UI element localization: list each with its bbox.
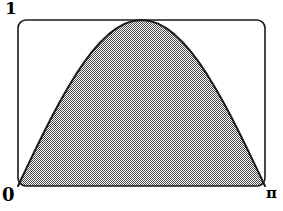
- sine-area-figure: 1 0 π: [0, 0, 283, 211]
- origin-label: 0: [2, 186, 15, 204]
- x-axis-max-label: π: [266, 186, 277, 201]
- y-axis-max-label: 1: [5, 0, 17, 17]
- shaded-area-group: [18, 20, 265, 186]
- area-under-curve: [18, 20, 265, 186]
- plot-canvas: [0, 0, 283, 211]
